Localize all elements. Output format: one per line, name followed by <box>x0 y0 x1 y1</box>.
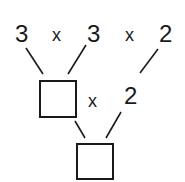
top-factor-1: 3 <box>15 22 28 46</box>
connector-line <box>140 49 158 73</box>
middle-operator: x <box>88 92 97 110</box>
factor-tree-diagram: 3 x 3 x 2 x 2 <box>0 0 185 182</box>
answer-box-bottom[interactable] <box>76 143 114 180</box>
connector-line <box>75 121 85 138</box>
top-factor-3: 2 <box>159 22 172 46</box>
top-factor-2: 3 <box>87 22 100 46</box>
connector-line <box>68 45 86 74</box>
middle-factor: 2 <box>124 84 137 108</box>
top-operator-2: x <box>125 26 134 44</box>
connector-line <box>106 112 121 138</box>
connector-line <box>26 48 43 74</box>
answer-box-middle[interactable] <box>39 80 77 118</box>
top-operator-1: x <box>52 26 61 44</box>
